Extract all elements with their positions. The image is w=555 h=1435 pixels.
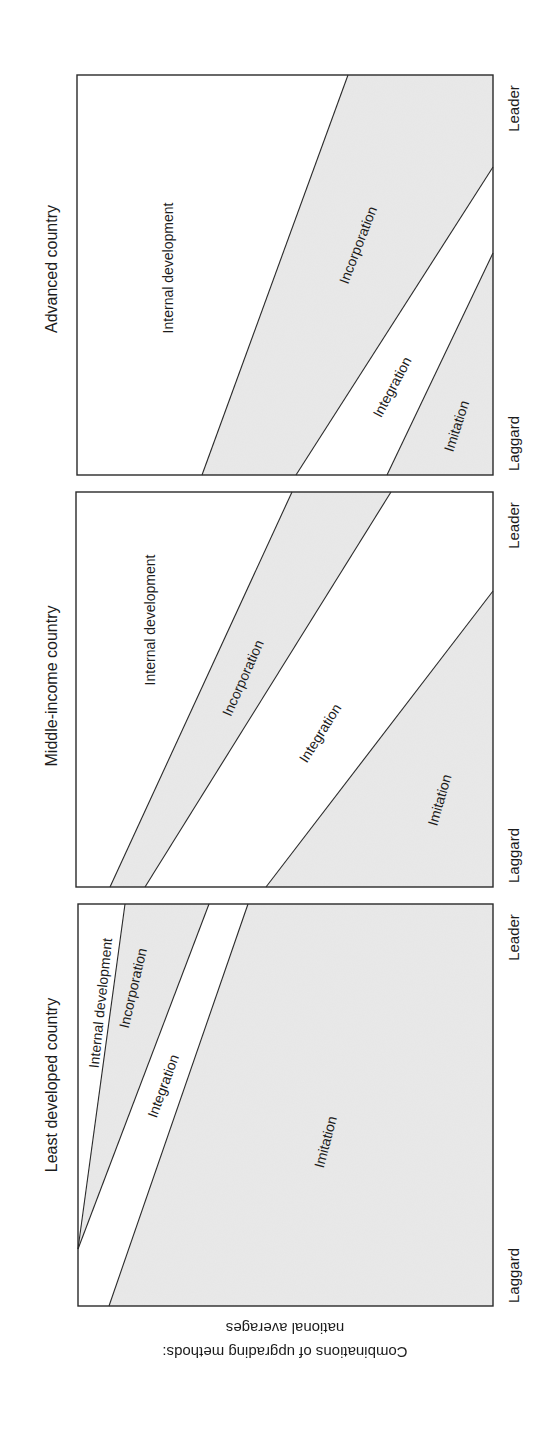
axis-label-leader: Leader [505,914,520,961]
axis-caption: Combinations of upgrading methods: natio… [100,1316,470,1364]
axis-caption-line-2: national averages [100,1316,470,1340]
axis-label-leader: Leader [505,85,520,132]
panel-title-least-developed: Least developed country [44,998,60,1172]
axis-label-laggard: Laggard [506,827,521,882]
panel-title-advanced: Advanced country [44,205,60,333]
axis-label-laggard: Laggard [506,415,521,470]
diagram-canvas [0,0,555,1435]
panel-advanced-country [77,75,493,475]
region-label-internal-development: Internal development [143,555,157,686]
axis-caption-line-1: Combinations of upgrading methods: [100,1340,470,1364]
panel-middle-income-country [76,492,493,887]
axis-label-laggard: Laggard [506,1247,521,1302]
upgrading-methods-diagram: Advanced country Internal development In… [0,0,555,1435]
region-label-internal-development: Internal development [161,203,175,334]
panel-title-middle-income: Middle-income country [44,606,60,767]
axis-label-leader: Leader [505,502,520,549]
